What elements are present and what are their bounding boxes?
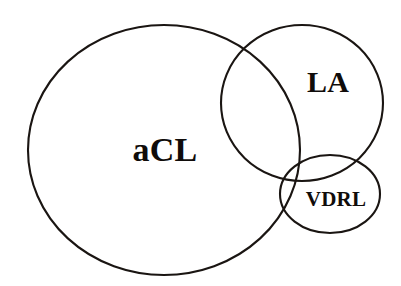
set-circle-la[interactable] [221, 25, 383, 181]
set-label-la: LA [307, 67, 349, 97]
venn-diagram: aCL LA VDRL [0, 0, 401, 286]
set-label-acl: aCL [133, 133, 198, 167]
venn-diagram-canvas [0, 0, 401, 286]
set-label-vdrl: VDRL [306, 189, 366, 210]
